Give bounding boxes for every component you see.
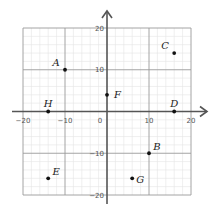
point-e	[46, 176, 50, 180]
point-label-a: A	[51, 57, 59, 68]
x-tick-label: 10	[145, 117, 154, 125]
point-b	[147, 151, 151, 155]
x-tick-label: −20	[16, 117, 31, 125]
y-tick-label: −20	[89, 192, 104, 200]
point-g	[130, 176, 134, 180]
x-tick-label: 0	[98, 117, 102, 125]
point-label-b: B	[152, 141, 160, 152]
points: ABCDEFGH	[43, 40, 178, 185]
x-tick-label: 20	[187, 117, 196, 125]
point-a	[63, 68, 67, 72]
point-d	[172, 110, 176, 114]
y-tick-label: 10	[95, 66, 104, 74]
point-label-g: G	[136, 174, 144, 185]
x-tick-label: −10	[58, 117, 73, 125]
y-tick-label: 20	[95, 25, 104, 33]
point-label-h: H	[43, 98, 53, 109]
point-h	[46, 110, 50, 114]
coordinate-plane: −20−10010202010−10−20 ABCDEFGH	[0, 0, 217, 216]
point-label-f: F	[113, 89, 122, 100]
y-tick-label: −10	[89, 150, 104, 158]
point-c	[172, 51, 176, 55]
point-label-c: C	[161, 40, 169, 51]
point-label-e: E	[52, 166, 61, 177]
point-f	[105, 93, 109, 97]
point-label-d: D	[169, 98, 178, 109]
